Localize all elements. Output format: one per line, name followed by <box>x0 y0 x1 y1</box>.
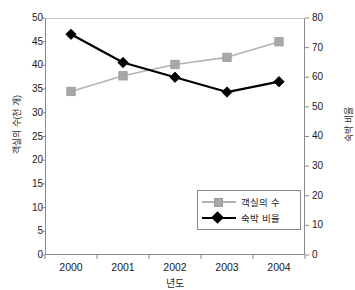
x-axis-ticks <box>45 255 305 259</box>
legend-item-rooms: 객실의 수 <box>202 194 296 210</box>
y-axis-left-ticks <box>41 18 45 255</box>
chart-container: 50 45 40 35 30 25 20 15 10 5 0 80 70 60 … <box>0 0 355 290</box>
y-axis-right-ticks <box>305 18 309 255</box>
legend-label: 숙박 비율 <box>241 211 280 225</box>
series-layer <box>0 0 355 290</box>
legend-diamond-marker-icon <box>202 211 236 225</box>
legend-item-occupancy: 숙박 비율 <box>202 210 296 226</box>
legend-square-marker-icon <box>202 195 236 209</box>
legend: 객실의 수 숙박 비율 <box>197 190 301 230</box>
legend-label: 객실의 수 <box>241 195 280 209</box>
